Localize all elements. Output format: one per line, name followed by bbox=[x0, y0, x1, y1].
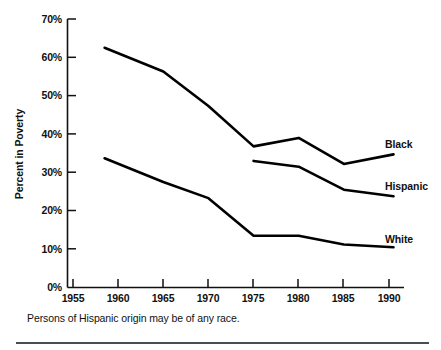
series-label-hispanic: Hispanic bbox=[385, 180, 428, 192]
x-tick-label-1965: 1965 bbox=[138, 292, 188, 304]
series-label-black: Black bbox=[385, 138, 413, 150]
series-line-white bbox=[105, 158, 394, 247]
x-axis-ticks bbox=[73, 279, 389, 288]
x-tick-label-1975: 1975 bbox=[228, 292, 278, 304]
x-tick-label-1970: 1970 bbox=[183, 292, 233, 304]
y-tick-label-60: 60% bbox=[14, 51, 62, 63]
x-tick-label-1960: 1960 bbox=[93, 292, 143, 304]
y-axis-title: Percent in Poverty bbox=[13, 88, 25, 220]
x-tick-label-1955: 1955 bbox=[48, 292, 98, 304]
axis-lines bbox=[68, 19, 405, 288]
series-label-white: White bbox=[385, 233, 413, 245]
series-line-black bbox=[105, 48, 394, 164]
x-tick-label-1985: 1985 bbox=[318, 292, 368, 304]
chart-footnote: Persons of Hispanic origin may be of any… bbox=[27, 312, 240, 324]
series-line-hispanic bbox=[254, 161, 394, 196]
y-tick-label-70: 70% bbox=[14, 13, 62, 25]
y-axis-ticks bbox=[68, 19, 77, 249]
x-tick-label-1990: 1990 bbox=[364, 292, 414, 304]
x-tick-label-1980: 1980 bbox=[273, 292, 323, 304]
poverty-rate-line-chart: 70% 60% 50% 40% 30% 20% 10% 0% 1955 1960… bbox=[0, 0, 441, 350]
y-tick-label-10: 10% bbox=[14, 243, 62, 255]
